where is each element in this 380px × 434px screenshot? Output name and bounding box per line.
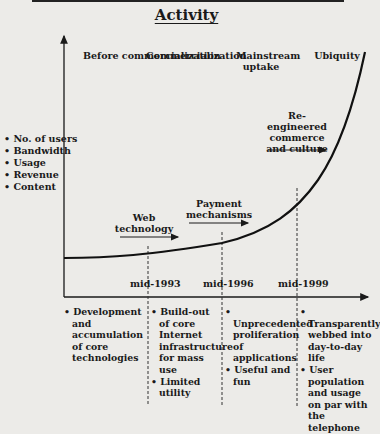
phase-item: Useful and fun <box>225 364 297 387</box>
milestone-1993: mid-1993 <box>130 278 181 289</box>
activity-metrics-list: No. of users Bandwidth Usage Revenue Con… <box>4 133 77 193</box>
era-mainstream-uptake: Mainstream uptake <box>236 50 286 72</box>
phase-item: Development and accumulation of core tec… <box>64 306 148 364</box>
metric-item: Usage <box>4 157 77 169</box>
metric-item: Content <box>4 181 77 193</box>
metric-item: Bandwidth <box>4 145 77 157</box>
phase-item: Build-out of core Internet infrastructur… <box>151 306 221 376</box>
phase-item: User population and usage on par with th… <box>300 364 372 434</box>
era-ubiquity: Ubiquity <box>312 50 362 61</box>
milestone-1996: mid-1996 <box>203 278 254 289</box>
phase-column-4: Transparently webbed into day-to-day lif… <box>300 306 372 434</box>
growth-curve <box>64 52 365 258</box>
metric-item: No. of users <box>4 133 77 145</box>
phase-column-2: Build-out of core Internet infrastructur… <box>151 306 221 399</box>
era-commercialization: Commercialization <box>146 50 234 61</box>
driver-payment-mechanisms: Payment mechanisms <box>184 198 254 220</box>
driver-reengineered-commerce: Re-engineered commerce and culture <box>262 110 332 154</box>
phase-column-3: Unprecedented proliferation of applicati… <box>225 306 297 387</box>
phase-column-1: Development and accumulation of core tec… <box>64 306 148 364</box>
phase-item: Limited utility <box>151 376 221 399</box>
metric-item: Revenue <box>4 169 77 181</box>
milestone-1999: mid-1999 <box>278 278 329 289</box>
driver-web-technology: Web technology <box>112 212 176 234</box>
phase-item: Transparently webbed into day-to-day lif… <box>300 306 372 364</box>
phase-item: Unprecedented proliferation of applicati… <box>225 306 297 364</box>
